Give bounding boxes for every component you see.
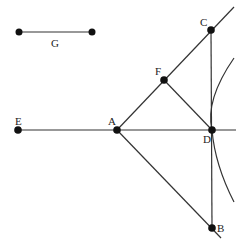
segment-G-endpoint-right — [89, 29, 96, 36]
line-A-C — [117, 7, 234, 130]
labeled-points: ABCDEF — [14, 16, 224, 234]
segment-G-endpoint-left — [16, 29, 23, 36]
label-E: E — [15, 115, 22, 127]
label-C: C — [200, 16, 207, 28]
point-C — [207, 26, 215, 34]
label-F: F — [155, 65, 161, 77]
point-F — [160, 76, 168, 84]
label-D: D — [203, 133, 211, 145]
point-B — [208, 224, 216, 232]
label-B: B — [217, 222, 224, 234]
point-A — [113, 126, 121, 134]
line-F-D — [164, 80, 212, 130]
label-G: G — [51, 37, 59, 49]
line-A-B — [117, 130, 221, 238]
geometry-diagram: G ABCDEF — [0, 0, 248, 248]
label-A: A — [108, 115, 116, 127]
point-E — [14, 126, 22, 134]
